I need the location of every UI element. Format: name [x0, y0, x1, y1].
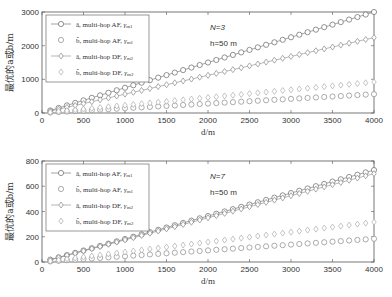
data-point — [288, 35, 293, 40]
data-point — [322, 225, 326, 231]
data-point — [305, 30, 310, 35]
data-point — [322, 94, 327, 99]
x-tick-label: 2000 — [199, 265, 217, 274]
data-point — [148, 246, 152, 252]
data-point — [272, 243, 277, 248]
data-point — [173, 98, 177, 104]
data-point — [363, 92, 368, 97]
x-axis-label: d/m — [201, 127, 215, 137]
data-point — [147, 252, 152, 257]
data-point — [363, 237, 368, 242]
data-point — [205, 60, 210, 65]
chart-n7: 0500100015002000250030003500400002004006… — [0, 149, 392, 297]
data-point — [347, 40, 351, 46]
svg-text:â, multi-hop AF, γm1: â, multi-hop AF, γm1 — [76, 21, 133, 30]
data-point — [364, 80, 368, 86]
data-point — [114, 88, 119, 93]
data-point — [239, 65, 243, 71]
legend: â, multi-hop AF, γm1b̂, multi-hop AF, γm… — [46, 15, 149, 82]
chart-n3: 0500100015002000250030003500400001000200… — [0, 0, 392, 148]
data-point — [330, 44, 334, 50]
y-tick-label: 1000 — [21, 75, 39, 84]
data-point — [139, 247, 143, 253]
data-point — [189, 241, 193, 247]
data-point — [280, 97, 285, 102]
data-point — [222, 55, 227, 60]
data-point — [338, 93, 343, 98]
data-point — [339, 42, 343, 48]
data-point — [281, 88, 285, 94]
data-point — [156, 84, 160, 90]
svg-text:b̂, multi-hop DF, γm2: b̂, multi-hop DF, γm2 — [76, 218, 134, 227]
annotation-n: N=7 — [210, 172, 225, 181]
data-point — [280, 243, 285, 248]
data-point — [280, 37, 285, 42]
svg-text:â, multi-hop DF, γm2: â, multi-hop DF, γm2 — [76, 202, 134, 211]
y-axis-label: 最优的a或b/m — [4, 182, 15, 241]
data-point — [288, 96, 293, 101]
data-point — [355, 237, 360, 242]
data-point — [347, 238, 352, 243]
data-point — [330, 224, 334, 230]
data-point — [364, 220, 368, 226]
data-point — [305, 95, 310, 100]
data-point — [123, 91, 127, 97]
data-point — [189, 102, 194, 107]
data-point — [198, 240, 202, 246]
data-point — [339, 223, 343, 229]
data-point — [189, 96, 193, 102]
data-point — [197, 248, 202, 253]
data-point — [247, 47, 252, 52]
data-point — [272, 231, 276, 237]
data-point — [214, 94, 218, 100]
data-point — [305, 85, 309, 91]
data-point — [205, 101, 210, 106]
data-point — [339, 82, 343, 88]
x-tick-label: 4000 — [365, 116, 383, 125]
data-point — [355, 38, 359, 44]
data-point — [181, 250, 186, 255]
data-point — [372, 35, 376, 41]
data-point — [338, 238, 343, 243]
data-point — [164, 251, 169, 256]
data-point — [222, 237, 226, 243]
series-1 — [48, 92, 377, 116]
data-point — [181, 67, 186, 72]
x-tick-label: 0 — [40, 265, 45, 274]
data-point — [256, 61, 260, 67]
x-tick-label: 0 — [40, 116, 45, 125]
data-point — [230, 246, 235, 251]
data-point — [156, 75, 161, 80]
data-point — [239, 50, 244, 55]
x-tick-label: 3000 — [282, 265, 300, 274]
data-point — [372, 79, 376, 85]
data-point — [272, 40, 277, 45]
data-point — [206, 239, 210, 245]
data-point — [156, 251, 161, 256]
data-point — [256, 233, 260, 239]
data-point — [330, 83, 334, 89]
data-point — [197, 101, 202, 106]
data-point — [330, 22, 335, 27]
data-point — [205, 248, 210, 253]
data-point — [281, 230, 285, 236]
data-point — [255, 98, 260, 103]
y-tick-label: 0 — [35, 258, 40, 267]
data-point — [148, 85, 152, 91]
data-point — [355, 81, 359, 87]
y-axis-label: 最优的a或b/m — [4, 33, 15, 92]
y-tick-label: 0 — [35, 109, 40, 118]
data-point — [231, 67, 235, 73]
data-point — [164, 73, 169, 78]
data-point — [222, 69, 226, 75]
annotation-n: N=3 — [210, 23, 225, 32]
x-tick-label: 3000 — [282, 116, 300, 125]
data-point — [289, 229, 293, 235]
data-point — [264, 89, 268, 95]
data-point — [214, 238, 218, 244]
data-point — [239, 235, 243, 241]
data-point — [297, 86, 301, 92]
data-point — [247, 63, 251, 69]
data-point — [231, 92, 235, 98]
data-point — [314, 84, 318, 90]
